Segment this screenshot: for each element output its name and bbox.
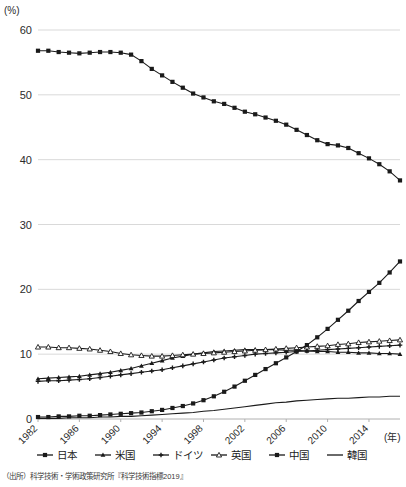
- series-marker-日本: [139, 59, 143, 63]
- series-marker-日本: [315, 138, 319, 142]
- source-note: （出所）科学技術・学術政策研究所『科学技術指標2019』: [2, 470, 404, 481]
- series-marker-中国: [284, 355, 288, 359]
- series-marker-中国: [253, 373, 257, 377]
- series-marker-日本: [201, 95, 205, 99]
- series-marker-日本: [98, 50, 102, 54]
- series-marker-ドイツ: [356, 345, 361, 350]
- series-marker-日本: [326, 142, 330, 146]
- series-marker-中国: [367, 290, 371, 294]
- series-marker-日本: [232, 106, 236, 110]
- y-axis-tick-40: 40: [20, 154, 32, 166]
- series-marker-中国: [315, 335, 319, 339]
- series-marker-中国: [305, 343, 309, 347]
- series-marker-中国: [222, 390, 226, 394]
- x-axis-tick-1982: 1982: [16, 422, 40, 446]
- legend-marker-ドイツ: [159, 453, 164, 458]
- series-marker-ドイツ: [87, 377, 92, 382]
- series-marker-中国: [294, 349, 298, 353]
- series-marker-中国: [377, 281, 381, 285]
- series-marker-中国: [181, 404, 185, 408]
- series-marker-日本: [46, 49, 50, 53]
- series-marker-ドイツ: [108, 374, 113, 379]
- series-marker-日本: [253, 112, 257, 116]
- series-marker-中国: [129, 411, 133, 415]
- series-marker-中国: [119, 412, 123, 416]
- y-axis-unit-label: (%): [4, 5, 20, 16]
- series-marker-日本: [377, 162, 381, 166]
- series-marker-日本: [88, 51, 92, 55]
- series-line-日本: [38, 51, 400, 181]
- series-marker-中国: [326, 327, 330, 331]
- series-marker-日本: [170, 80, 174, 84]
- series-marker-ドイツ: [118, 373, 123, 378]
- series-marker-日本: [191, 91, 195, 95]
- line-chart: (%)0102030405060198219861990199419982002…: [0, 0, 406, 470]
- series-marker-日本: [150, 67, 154, 71]
- y-axis-tick-30: 30: [20, 219, 32, 231]
- series-marker-中国: [388, 270, 392, 274]
- series-marker-日本: [274, 119, 278, 123]
- series-marker-中国: [191, 401, 195, 405]
- series-marker-ドイツ: [139, 370, 144, 375]
- series-marker-日本: [67, 51, 71, 55]
- series-marker-ドイツ: [336, 347, 341, 352]
- series-marker-ドイツ: [160, 367, 165, 372]
- series-marker-ドイツ: [129, 371, 134, 376]
- series-marker-中国: [398, 259, 402, 263]
- series-marker-中国: [150, 409, 154, 413]
- x-axis-tick-1990: 1990: [99, 422, 123, 446]
- series-marker-日本: [119, 51, 123, 55]
- legend-marker-日本: [43, 453, 47, 457]
- x-axis-tick-1994: 1994: [140, 422, 164, 446]
- series-marker-中国: [160, 408, 164, 412]
- series-marker-中国: [336, 318, 340, 322]
- legend-label-韓国[interactable]: 韓国: [347, 449, 367, 461]
- series-line-韓国: [38, 396, 400, 418]
- x-axis-unit-label: (年): [384, 431, 401, 443]
- y-axis-tick-20: 20: [20, 283, 32, 295]
- series-marker-日本: [129, 53, 133, 57]
- legend-label-米国[interactable]: 米国: [115, 449, 135, 461]
- series-marker-日本: [222, 102, 226, 106]
- legend-label-英国[interactable]: 英国: [231, 449, 251, 461]
- series-marker-ドイツ: [398, 343, 403, 348]
- legend-marker-中国: [275, 453, 279, 457]
- series-marker-中国: [108, 412, 112, 416]
- series-marker-ドイツ: [367, 345, 372, 350]
- x-axis-tick-1998: 1998: [181, 422, 205, 446]
- legend-label-ドイツ[interactable]: ドイツ: [173, 449, 203, 461]
- series-marker-ドイツ: [232, 354, 237, 359]
- y-axis-tick-60: 60: [20, 24, 32, 36]
- series-marker-日本: [346, 146, 350, 150]
- series-marker-中国: [274, 361, 278, 365]
- series-marker-日本: [243, 110, 247, 114]
- legend-label-日本[interactable]: 日本: [57, 449, 78, 461]
- series-marker-日本: [398, 178, 402, 182]
- series-marker-中国: [212, 394, 216, 398]
- series-line-中国: [38, 261, 400, 417]
- chart-container: (%)0102030405060198219861990199419982002…: [0, 0, 406, 487]
- series-marker-ドイツ: [346, 346, 351, 351]
- series-marker-ドイツ: [377, 344, 382, 349]
- series-marker-中国: [139, 410, 143, 414]
- series-marker-日本: [181, 86, 185, 90]
- series-marker-ドイツ: [98, 375, 103, 380]
- x-axis-tick-1986: 1986: [57, 422, 81, 446]
- series-marker-中国: [263, 367, 267, 371]
- series-marker-ドイツ: [222, 356, 227, 361]
- y-axis-tick-50: 50: [20, 89, 32, 101]
- x-axis-tick-2002: 2002: [223, 422, 247, 446]
- series-marker-日本: [357, 151, 361, 155]
- series-marker-日本: [263, 115, 267, 119]
- legend-label-中国[interactable]: 中国: [289, 449, 309, 461]
- series-marker-ドイツ: [387, 343, 392, 348]
- series-marker-中国: [346, 309, 350, 313]
- series-marker-日本: [367, 156, 371, 160]
- series-marker-日本: [57, 50, 61, 54]
- series-marker-ドイツ: [212, 358, 217, 363]
- series-marker-日本: [305, 133, 309, 137]
- series-marker-日本: [336, 143, 340, 147]
- series-marker-中国: [170, 406, 174, 410]
- series-marker-日本: [108, 50, 112, 54]
- series-marker-日本: [77, 51, 81, 55]
